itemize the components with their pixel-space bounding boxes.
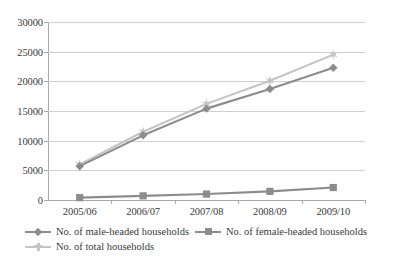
series-1 [76,184,337,201]
legend-key-female-square-icon [195,226,221,237]
legend-label-female: No. of female-headed households [226,226,367,237]
y-tick-label: 30000 [17,17,43,28]
legend-key-marker [205,228,212,235]
line-chart: 050001000015000200002500030000 2005/0620… [0,0,396,265]
y-tick-label: 10000 [17,135,43,146]
legend-row-2: No. of total households [25,239,385,254]
y-tick-label: 0 [38,195,43,206]
legend-item-female-headed[interactable]: No. of female-headed households [195,226,385,237]
legend-item-male-headed[interactable]: No. of male-headed households [25,226,195,237]
legend-label-total: No. of total households [56,241,154,252]
legend-key-marker [34,245,42,248]
y-tick-label: 25000 [17,46,43,57]
x-tick-label: 2006/07 [126,206,160,217]
x-tick-mark [238,200,239,204]
series-0 [76,63,338,170]
legend-key-marker [34,227,42,235]
x-tick-label: 2007/08 [190,206,224,217]
legend-item-total[interactable]: No. of total households [25,241,195,252]
x-tick-mark [175,200,176,204]
series-plot [48,22,365,200]
x-tick-label: 2009/10 [316,206,350,217]
x-tick-label: 2005/06 [63,206,97,217]
legend-label-male: No. of male-headed households [56,226,189,237]
legend-row-1: No. of male-headed households No. of fem… [25,224,385,239]
plot-area: 050001000015000200002500030000 [48,22,365,200]
legend-key-male-diamond-icon [25,226,51,237]
x-tick-mark [365,200,366,204]
gridline [48,200,365,201]
x-tick-label: 2008/09 [253,206,287,217]
chart-legend: No. of male-headed households No. of fem… [25,224,385,254]
y-tick-label: 20000 [17,76,43,87]
y-tick-label: 5000 [22,165,43,176]
x-tick-mark [302,200,303,204]
y-tick-label: 15000 [17,106,43,117]
x-tick-mark [111,200,112,204]
y-tick-mark [44,200,48,201]
legend-key-total-star-icon [25,241,51,252]
